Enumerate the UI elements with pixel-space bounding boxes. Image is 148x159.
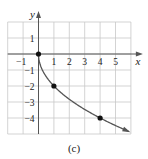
y-tick-label: −1 — [24, 66, 34, 76]
y-tick-label: −3 — [24, 98, 34, 108]
x-tick-label: 1 — [52, 57, 57, 67]
x-tick-label: 3 — [82, 57, 87, 67]
y-tick-label: −2 — [24, 82, 34, 92]
figure-caption: (c) — [0, 142, 148, 154]
x-tick-label: 2 — [67, 57, 72, 67]
data-point — [98, 115, 103, 120]
y-tick-label: −4 — [24, 114, 34, 124]
y-axis-label: y — [29, 8, 35, 20]
x-tick-label: 5 — [113, 57, 118, 67]
x-tick-label: 4 — [98, 57, 103, 67]
graph: xy −1123451−1−2−3−4 — [0, 0, 148, 159]
y-axis-arrow-icon — [36, 11, 41, 18]
y-tick-label: 1 — [30, 34, 35, 44]
x-axis-label: x — [134, 55, 140, 67]
curve-arrow-icon — [122, 127, 130, 132]
data-point — [51, 83, 56, 88]
data-point — [36, 51, 41, 56]
tick-labels: −1123451−1−2−3−4 — [16, 34, 118, 124]
